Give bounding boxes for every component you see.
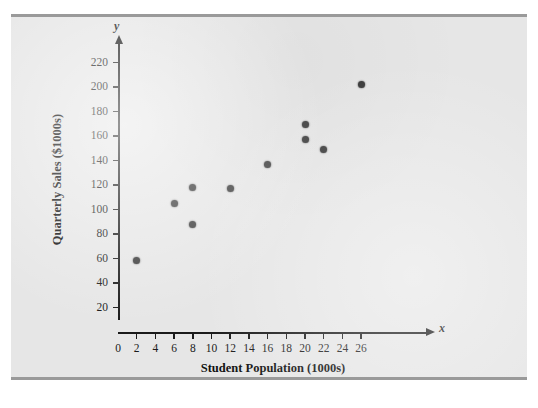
x-tick-24 bbox=[342, 333, 344, 339]
x-tick-16 bbox=[267, 333, 269, 339]
x-axis-line bbox=[118, 332, 428, 334]
y-tick-label-80: 80 bbox=[72, 227, 108, 239]
y-tick-label-140: 140 bbox=[72, 154, 108, 166]
y-tick-40 bbox=[113, 282, 119, 284]
x-tick-20 bbox=[304, 333, 306, 339]
y-tick-label-120: 120 bbox=[72, 178, 108, 190]
x-tick-8 bbox=[192, 333, 194, 339]
x-tick-12 bbox=[229, 333, 231, 339]
y-tick-label-220: 220 bbox=[72, 56, 108, 68]
data-point bbox=[358, 81, 365, 88]
data-point bbox=[264, 161, 271, 168]
figure-panel: y x 20406080100120140160180200220 024681… bbox=[11, 14, 527, 380]
scatter-plot-area: y x 20406080100120140160180200220 024681… bbox=[11, 17, 527, 377]
data-point bbox=[171, 200, 178, 207]
y-tick-200 bbox=[113, 86, 119, 88]
x-tick-6 bbox=[173, 333, 175, 339]
y-tick-label-200: 200 bbox=[72, 80, 108, 92]
y-tick-label-180: 180 bbox=[72, 105, 108, 117]
x-axis-arrow-icon bbox=[426, 328, 435, 336]
y-tick-180 bbox=[113, 111, 119, 113]
x-axis-variable-symbol: x bbox=[439, 321, 445, 336]
y-tick-label-20: 20 bbox=[72, 301, 108, 313]
y-tick-220 bbox=[113, 62, 119, 64]
x-tick-18 bbox=[286, 333, 288, 339]
y-axis-title: Quarterly Sales ($1000s) bbox=[50, 85, 65, 275]
y-axis-line bbox=[118, 43, 120, 320]
x-tick-22 bbox=[323, 333, 325, 339]
data-point bbox=[189, 221, 196, 228]
y-axis-variable-symbol: y bbox=[114, 19, 119, 34]
figure-caption: CHART 1 SCATTER DIAGRAM FOR ARMAND'S PIZ… bbox=[0, 0, 538, 1]
x-tick-label-26: 26 bbox=[348, 342, 374, 354]
data-point bbox=[302, 136, 309, 143]
y-axis-arrow-icon bbox=[115, 35, 123, 44]
y-tick-160 bbox=[113, 135, 119, 137]
x-tick-14 bbox=[248, 333, 250, 339]
x-tick-2 bbox=[136, 333, 138, 339]
y-tick-140 bbox=[113, 160, 119, 162]
y-tick-label-60: 60 bbox=[72, 252, 108, 264]
x-tick-4 bbox=[155, 333, 157, 339]
data-point bbox=[320, 146, 327, 153]
x-tick-26 bbox=[360, 333, 362, 339]
y-tick-60 bbox=[113, 258, 119, 260]
y-tick-label-100: 100 bbox=[72, 203, 108, 215]
data-point bbox=[302, 121, 309, 128]
y-tick-label-160: 160 bbox=[72, 129, 108, 141]
y-tick-100 bbox=[113, 209, 119, 211]
y-tick-120 bbox=[113, 184, 119, 186]
y-tick-20 bbox=[113, 307, 119, 309]
data-point bbox=[133, 257, 140, 264]
y-tick-80 bbox=[113, 233, 119, 235]
data-point bbox=[227, 185, 234, 192]
y-tick-label-40: 40 bbox=[72, 276, 108, 288]
x-tick-10 bbox=[211, 333, 213, 339]
data-point bbox=[189, 184, 196, 191]
x-axis-title: Student Population (1000s) bbox=[118, 361, 428, 376]
